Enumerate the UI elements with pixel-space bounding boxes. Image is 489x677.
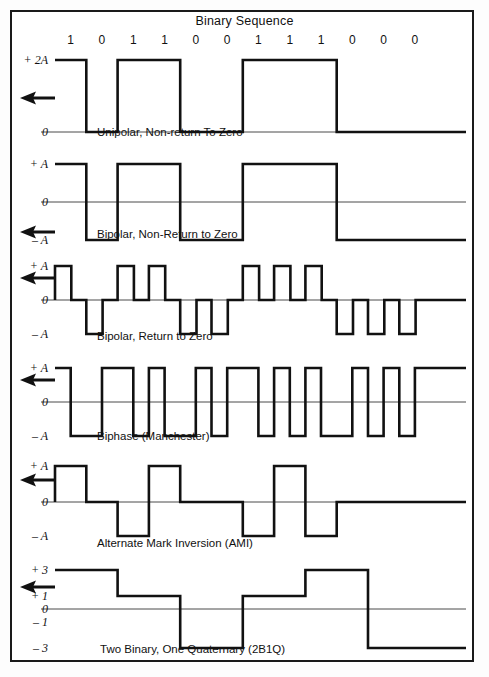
bit-label: 1 (318, 33, 325, 47)
line-coding-figure: Binary Sequence 101100111000 + 2A0Unipol… (0, 0, 489, 677)
panel-caption: Alternate Mark Inversion (AMI) (97, 537, 253, 549)
axis-level-label: + A (0, 157, 48, 172)
bit-label: 1 (161, 33, 168, 47)
bit-label: 1 (130, 33, 137, 47)
waveform-panel-manchester: + A0– ABiphase (Manchester) (0, 356, 489, 452)
axis-level-label: – A (0, 529, 48, 544)
axis-level-label: + A (0, 259, 48, 274)
axis-level-label: – 1 (0, 615, 48, 630)
signal-waveform (55, 60, 466, 132)
panel-caption: Bipolar, Return to Zero (97, 330, 213, 342)
bit-label: 0 (380, 33, 387, 47)
bit-label: 0 (224, 33, 231, 47)
axis-level-label: 0 (0, 395, 48, 410)
binary-sequence-row: 101100111000 (0, 33, 489, 49)
axis-level-label: – A (0, 327, 48, 342)
axis-level-label: + A (0, 459, 48, 474)
waveform-panel-bipolar-rz: + A0– ABipolar, Return to Zero (0, 256, 489, 356)
signal-waveform (55, 466, 466, 536)
axis-level-label: 0 (0, 495, 48, 510)
axis-level-label: 0 (0, 195, 48, 210)
panel-caption: Unipolar, Non-return To Zero (97, 126, 243, 138)
left-arrow-icon (20, 474, 55, 487)
waveform-panel-bipolar-nrz: + A0– ABipolar, Non-Return to Zero (0, 152, 489, 252)
axis-level-label: – A (0, 429, 48, 444)
bit-label: 1 (255, 33, 262, 47)
axis-level-label: 0 (0, 125, 48, 140)
axis-level-label: + A (0, 361, 48, 376)
axis-level-label: – A (0, 233, 48, 248)
bit-label: 0 (349, 33, 356, 47)
bit-label: 0 (412, 33, 419, 47)
waveform-panel-twobinary-onequaternary: + 3+ 10– 1– 3Two Binary, One Quaternary … (0, 556, 489, 660)
bit-label: 1 (67, 33, 74, 47)
panel-caption: Bipolar, Non-Return to Zero (97, 228, 238, 240)
figure-title: Binary Sequence (0, 14, 489, 28)
waveform-panel-ami: + A0– AAlternate Mark Inversion (AMI) (0, 454, 489, 550)
bit-label: 0 (193, 33, 200, 47)
axis-level-label: – 3 (0, 641, 48, 656)
panel-caption: Biphase (Manchester) (97, 430, 210, 442)
panel-caption: Two Binary, One Quaternary (2B1Q) (100, 643, 285, 655)
waveform-panel-unipolar-nrz: + 2A0Unipolar, Non-return To Zero (0, 50, 489, 150)
bit-label: 0 (99, 33, 106, 47)
axis-level-label: + 2A (0, 53, 48, 68)
left-arrow-icon (20, 92, 55, 105)
axis-level-label: + 3 (0, 563, 48, 578)
bit-label: 1 (286, 33, 293, 47)
axis-level-label: 0 (0, 293, 48, 308)
